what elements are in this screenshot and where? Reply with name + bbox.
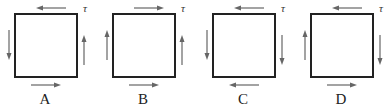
bottom-shear-arrow-right-icon xyxy=(327,82,357,88)
left-shear-arrow-down-icon xyxy=(204,30,210,60)
right-shear-arrow-up-icon xyxy=(179,35,185,65)
left-shear-arrow-up-icon xyxy=(104,30,110,60)
right-shear-arrow-down-icon xyxy=(377,35,383,65)
right-shear-arrow-down-icon xyxy=(279,35,285,65)
bottom-shear-arrow-left-icon xyxy=(229,82,259,88)
element-square xyxy=(212,13,276,78)
top-shear-arrow-right-icon xyxy=(134,5,164,11)
element-square xyxy=(310,13,374,78)
top-shear-arrow-left-icon xyxy=(332,5,362,11)
tau-symbol: τ xyxy=(379,2,383,14)
panel-d: τ D xyxy=(0,0,96,112)
option-label: B xyxy=(133,91,153,108)
left-shear-arrow-up-icon xyxy=(302,30,308,60)
element-square xyxy=(112,13,176,78)
option-label: C xyxy=(233,91,253,108)
tau-symbol: τ xyxy=(281,2,285,14)
tau-symbol: τ xyxy=(181,2,185,14)
top-shear-arrow-left-icon xyxy=(234,5,264,11)
option-label: D xyxy=(331,91,351,108)
bottom-shear-arrow-right-icon xyxy=(129,82,159,88)
